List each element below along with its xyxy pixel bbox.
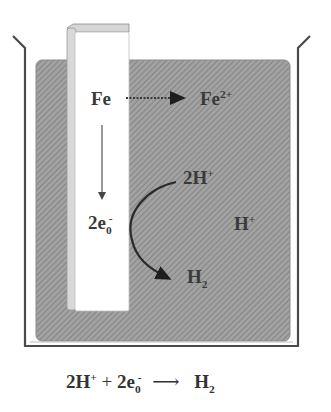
fe2-charge: 2+ — [220, 88, 232, 100]
eq-arrow-icon: ⟶ — [152, 371, 179, 392]
label-fe2plus: Fe2+ — [200, 89, 232, 108]
fe-text: Fe — [91, 88, 111, 109]
fe2-base: Fe — [200, 88, 220, 109]
eq-h2-sub: 2 — [209, 383, 215, 395]
h2-sub: 2 — [202, 278, 208, 290]
label-electrons: 2e0- — [88, 213, 112, 237]
h2-base: H — [187, 266, 202, 287]
label-h2: H2 — [187, 267, 207, 290]
two-h-base: 2H — [183, 167, 207, 188]
iron-electrode — [67, 24, 129, 311]
eq-plus: + — [102, 371, 113, 392]
eq-electrons-base: 2e — [117, 371, 135, 392]
eq-2h-base: 2H — [66, 371, 90, 392]
eq-electrons-charge: - — [138, 371, 142, 383]
label-hplus: H+ — [234, 214, 255, 233]
h-plus-base: H — [234, 213, 249, 234]
eq-2h-charge: + — [90, 371, 97, 383]
corrosion-diagram: Fe Fe2+ 2e0- 2H+ H+ H2 2H+ + 2e0- ⟶ H2 — [0, 0, 331, 412]
eq-h2-base: H — [194, 371, 209, 392]
electrons-sub: 0 — [106, 224, 112, 236]
electrons-base: 2e — [88, 212, 106, 233]
eq-electrons-sub: 0 — [135, 383, 141, 395]
label-fe: Fe — [91, 89, 111, 108]
electrons-charge: - — [109, 212, 113, 224]
reduction-equation: 2H+ + 2e0- ⟶ H2 — [66, 372, 215, 396]
h-plus-charge: + — [249, 213, 256, 225]
label-2hplus: 2H+ — [183, 168, 214, 187]
two-h-charge: + — [207, 167, 214, 179]
diagram-graphics — [0, 0, 331, 412]
